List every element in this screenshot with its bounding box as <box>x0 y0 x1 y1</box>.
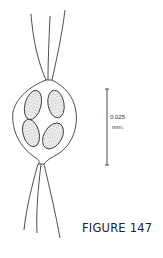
scale-bar-unit: mm. <box>112 124 124 130</box>
scale-bar-value: 0.025 <box>110 114 125 120</box>
body-lower-left <box>20 117 43 148</box>
cell-illustration <box>0 0 163 258</box>
scale-bar <box>105 89 109 165</box>
bottom-bristle-middle <box>37 164 41 233</box>
top-bristle-right <box>52 10 65 80</box>
body-upper-left <box>21 88 44 121</box>
top-bristle-middle <box>48 16 50 80</box>
bottom-bristle-right <box>44 164 60 238</box>
top-bristle-left <box>31 14 46 80</box>
body-lower-right <box>38 119 68 152</box>
figure-caption: FIGURE 147 <box>82 221 152 235</box>
body-upper-right <box>46 89 67 119</box>
cell-outline <box>13 80 77 164</box>
bottom-bristle-left <box>24 164 38 230</box>
